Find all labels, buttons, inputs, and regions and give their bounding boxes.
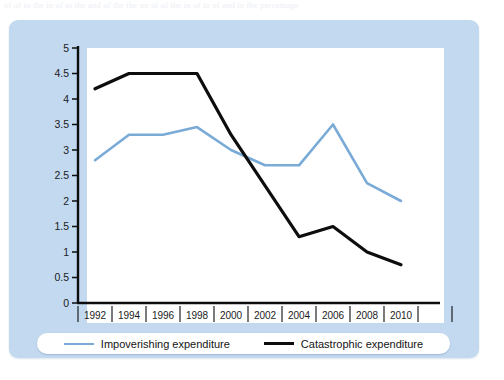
y-axis-tick-label: 2.5: [54, 169, 69, 181]
x-axis-tick-label: 1992: [84, 310, 107, 321]
y-axis-tick-label: 0.5: [54, 271, 69, 283]
y-axis-tick-label: 5: [63, 42, 69, 54]
chart-legend: Impoverishing expenditure Catastrophic e…: [37, 333, 450, 354]
x-axis-tick-label: 1994: [118, 310, 141, 321]
x-axis-tick-label: 2002: [254, 310, 277, 321]
legend-label-impoverishing: Impoverishing expenditure: [101, 338, 230, 350]
legend-swatch-impoverishing-icon: [64, 343, 94, 345]
x-axis-tick-label: 1996: [152, 310, 175, 321]
y-axis-tick-label: 4.5: [54, 67, 69, 79]
y-axis-tick-label: 1: [63, 246, 69, 258]
x-axis-tick-label: 1998: [186, 310, 209, 321]
x-axis-tick-label: 2004: [288, 310, 311, 321]
legend-label-catastrophic: Catastrophic expenditure: [301, 338, 423, 350]
y-axis-tick-label: 3: [63, 144, 69, 156]
y-axis-tick-label: 2: [63, 195, 69, 207]
y-axis-tick-label: 4: [63, 93, 69, 105]
y-axis-tick-label: 3.5: [54, 118, 69, 130]
x-axis-tick-label: 2006: [322, 310, 345, 321]
legend-item-catastrophic: Catastrophic expenditure: [264, 338, 423, 350]
series-line-catastrophic: [95, 74, 401, 265]
x-axis-tick-label: 2000: [220, 310, 243, 321]
page-text-line: of of to the in of to the and of the the…: [0, 0, 504, 11]
x-axis-tick-label: 2010: [390, 310, 413, 321]
y-axis-tick-label: 0: [63, 297, 69, 309]
figure-panel: 00.511.522.533.544.551992199419961998200…: [9, 20, 479, 358]
y-axis-tick-label: 1.5: [54, 220, 69, 232]
line-chart: 00.511.522.533.544.551992199419961998200…: [9, 20, 479, 358]
x-axis-tick-label: 2008: [356, 310, 379, 321]
legend-item-impoverishing: Impoverishing expenditure: [64, 338, 230, 350]
legend-swatch-catastrophic-icon: [264, 342, 294, 345]
page-text-strip: of of to the in of to the and of the the…: [0, 0, 504, 13]
